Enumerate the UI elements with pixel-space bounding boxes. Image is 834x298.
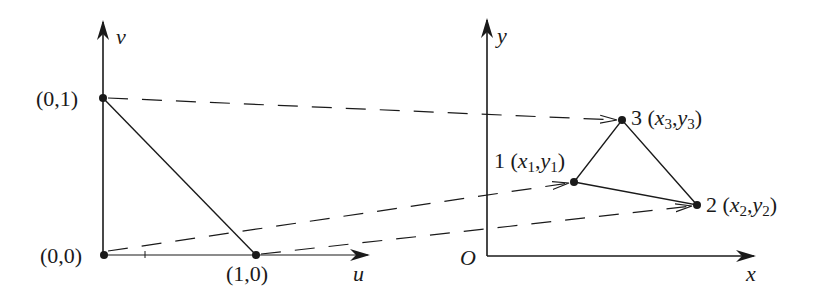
- physical-triangle: [574, 120, 697, 205]
- point-0-0-label: (0,0): [40, 243, 82, 268]
- u-axis-label: u: [353, 261, 364, 286]
- node-2-dot: [693, 201, 701, 209]
- node-1-label: 1 (x1,y1): [494, 148, 565, 175]
- y-axis-label: y: [495, 23, 507, 48]
- mapping-line-0-0-to-node-1: [108, 183, 569, 251]
- x-axis-label: x: [745, 261, 756, 286]
- point-0-1-dot: [99, 94, 107, 102]
- point-0-0-dot: [100, 251, 108, 259]
- mapping-line-0-1-to-node-3: [108, 98, 617, 120]
- point-1-0-label: (1,0): [226, 261, 268, 286]
- origin-label: O: [460, 245, 476, 270]
- triangle-mapping-diagram: (0,1) (0,0) (1,0) v u y x O 3 (x3,y3) 1 …: [0, 0, 834, 298]
- reference-plane: (0,1) (0,0) (1,0) v u: [36, 22, 368, 286]
- node-1-dot: [570, 178, 578, 186]
- node-2-label: 2 (x2,y2): [706, 192, 777, 219]
- mapping-lines: [108, 98, 692, 254]
- point-1-0-dot: [252, 251, 260, 259]
- physical-plane: y x O 3 (x3,y3) 1 (x1,y1) 2 (x2,y2): [460, 20, 777, 286]
- node-3-label: 3 (x3,y3): [631, 105, 702, 132]
- node-3-dot: [618, 116, 626, 124]
- mapping-line-1-0-to-node-2: [261, 206, 692, 254]
- point-0-1-label: (0,1): [36, 86, 78, 111]
- v-axis-label: v: [116, 24, 126, 49]
- reference-triangle-hypotenuse: [103, 98, 256, 255]
- diagram-canvas: (0,1) (0,0) (1,0) v u y x O 3 (x3,y3) 1 …: [0, 0, 834, 298]
